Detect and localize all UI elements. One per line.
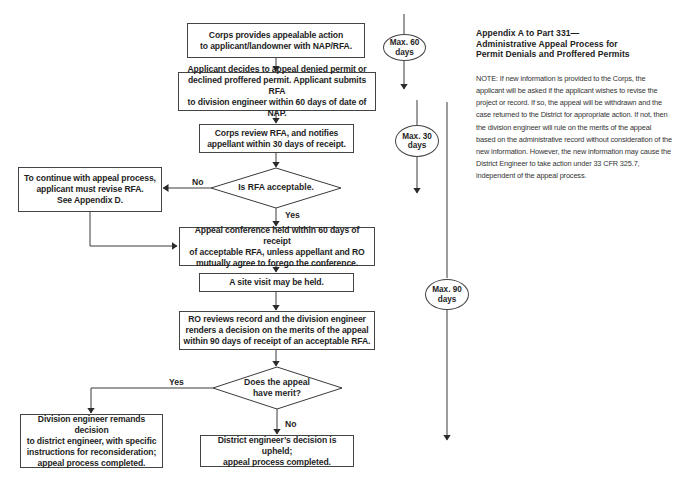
edge-label-d2-no: No — [285, 419, 296, 429]
appendix-title-line-1: Appendix A to Part 331— — [476, 28, 672, 39]
arrow-revise-step4 — [90, 211, 177, 246]
decision-appeal-merit-label: Does the appeal have merit? — [227, 377, 327, 398]
appendix-title-line-3: Permit Denials and Proffered Permits — [476, 49, 672, 60]
step-revise-rfa: To continue with appeal process, applica… — [18, 167, 162, 212]
decision-rfa-acceptable-label: Is RFA acceptable. — [226, 182, 326, 193]
appendix-title: Appendix A to Part 331— Administrative A… — [476, 28, 672, 60]
appendix-note: NOTE: If new information is provided to … — [476, 73, 672, 182]
appendix-panel: Appendix A to Part 331— Administrative A… — [476, 28, 672, 182]
step-corps-review-text: Corps review RFA, and notifies appellant… — [207, 128, 346, 150]
timeline-oval-90-days: Max. 90 days — [425, 279, 469, 310]
step-appeal-conference-text: Appeal conference held within 60 days of… — [183, 225, 371, 269]
step-site-visit-text: A site visit may be held. — [229, 277, 324, 288]
step-corps-review: Corps review RFA, and notifies appellant… — [199, 124, 354, 153]
step-site-visit: A site visit may be held. — [199, 273, 354, 292]
step-upheld: District engineer’s decision is upheld; … — [200, 435, 354, 467]
step-applicant-decides-text: Applicant decides to appeal denied permi… — [182, 64, 372, 119]
arrow-decision2-yes — [91, 388, 213, 413]
step-ro-reviews-text: RO reviews record and the division engin… — [184, 314, 371, 347]
step-appealable-action-text: Corps provides appealable action to appl… — [200, 30, 352, 52]
appendix-title-line-2: Administrative Appeal Process for — [476, 39, 672, 50]
step-applicant-decides: Applicant decides to appeal denied permi… — [178, 72, 376, 111]
step-upheld-text: District engineer’s decision is upheld; … — [204, 435, 350, 468]
edge-label-d1-yes: Yes — [285, 210, 300, 220]
timeline-oval-60-days: Max. 60 days — [383, 34, 426, 61]
step-appeal-conference: Appeal conference held within 60 days of… — [179, 227, 375, 266]
step-appealable-action: Corps provides appealable action to appl… — [187, 23, 365, 58]
step-remand-text: Division engineer remands decision to di… — [24, 414, 159, 469]
step-ro-reviews: RO reviews record and the division engin… — [179, 311, 375, 350]
edge-label-d1-no: No — [192, 177, 203, 187]
timeline-oval-30-days: Max. 30 days — [395, 125, 439, 157]
step-revise-rfa-text: To continue with appeal process, applica… — [24, 173, 156, 206]
step-remand: Division engineer remands decision to di… — [20, 414, 163, 468]
edge-label-d2-yes: Yes — [169, 377, 184, 387]
